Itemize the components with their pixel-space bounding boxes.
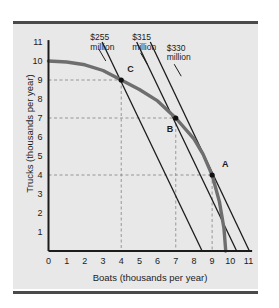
annotation-leader-1 xyxy=(141,53,148,65)
data-point-b[interactable] xyxy=(173,115,178,120)
point-label-a: A xyxy=(222,159,229,169)
cost-label-255: $255 million xyxy=(90,33,114,52)
x-tick-label-10: 10 xyxy=(223,256,237,266)
x-axis-title: Boats (thousands per year) xyxy=(40,272,260,283)
cost-label-330-amount: $330 xyxy=(167,43,186,53)
point-label-b: B xyxy=(167,124,174,134)
y-axis-title: Trucks (thousands per year) xyxy=(24,59,35,209)
y-tick-label-1: 1 xyxy=(29,227,43,237)
x-tick-label-8: 8 xyxy=(187,256,201,266)
point-label-c: C xyxy=(127,64,134,74)
x-tick-label-6: 6 xyxy=(151,256,165,266)
x-tick-label-4: 4 xyxy=(114,256,128,266)
x-tick-label-7: 7 xyxy=(169,256,183,266)
cost-label-315-amount: $315 xyxy=(132,32,151,42)
x-tick-label-9: 9 xyxy=(205,256,219,266)
cost-label-315-unit: million xyxy=(132,42,156,52)
annotation-leader-2 xyxy=(174,64,181,76)
data-point-c[interactable] xyxy=(119,77,124,82)
ppf-curve xyxy=(49,61,226,251)
figure-container: 012345678910111234567891011 Trucks (thou… xyxy=(0,0,279,308)
x-tick-label-11: 11 xyxy=(241,256,255,266)
x-tick-label-1: 1 xyxy=(60,256,74,266)
cost-label-330: $330 million xyxy=(167,44,191,63)
data-point-a[interactable] xyxy=(210,172,215,177)
x-tick-label-3: 3 xyxy=(96,256,110,266)
cost-label-330-unit: million xyxy=(167,52,191,62)
y-tick-label-11: 11 xyxy=(29,37,43,47)
cost-label-315: $315 million xyxy=(132,33,156,52)
x-tick-label-0: 0 xyxy=(42,256,56,266)
x-tick-label-2: 2 xyxy=(78,256,92,266)
cost-label-255-unit: million xyxy=(90,42,114,52)
cost-label-255-amount: $255 xyxy=(90,32,109,42)
y-tick-label-2: 2 xyxy=(29,208,43,218)
x-tick-label-5: 5 xyxy=(132,256,146,266)
